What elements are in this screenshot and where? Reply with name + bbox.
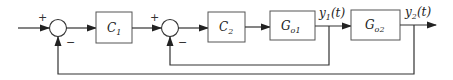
block-diagram: + − C1 + − C2 Go1 y1(t) Go2 y2(t) [0, 0, 453, 80]
sum1-plus-sign: + [38, 11, 47, 24]
sum1-minus-sign: − [66, 36, 75, 49]
summing-junction-1 [50, 20, 67, 37]
summing-junction-2 [162, 20, 179, 37]
signal-y1-label: y1(t) [318, 6, 345, 22]
sum2-minus-sign: − [178, 36, 187, 49]
signal-y2-label: y2(t) [404, 5, 431, 21]
sum2-plus-sign: + [150, 11, 159, 24]
